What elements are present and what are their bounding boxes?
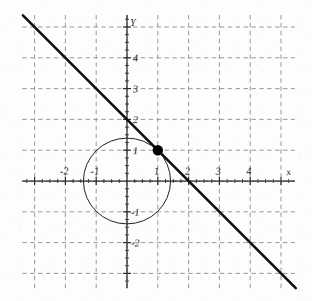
graph-figure: -2-112344321-1-2Yx: [0, 0, 312, 301]
y-tick-label: 1: [132, 145, 138, 156]
intersection-point-marker[interactable]: [153, 145, 163, 155]
x-tick-label: 3: [214, 165, 221, 176]
x-tick-label: 1: [154, 165, 160, 176]
y-tick-label: -1: [131, 206, 140, 217]
y-tick-label: -2: [131, 237, 141, 248]
x-tick-label: -2: [59, 165, 69, 177]
x-tick-label: -1: [90, 165, 99, 177]
y-tick-label: 3: [131, 83, 138, 94]
coordinate-plane: -2-112344321-1-2Yx: [0, 0, 312, 301]
